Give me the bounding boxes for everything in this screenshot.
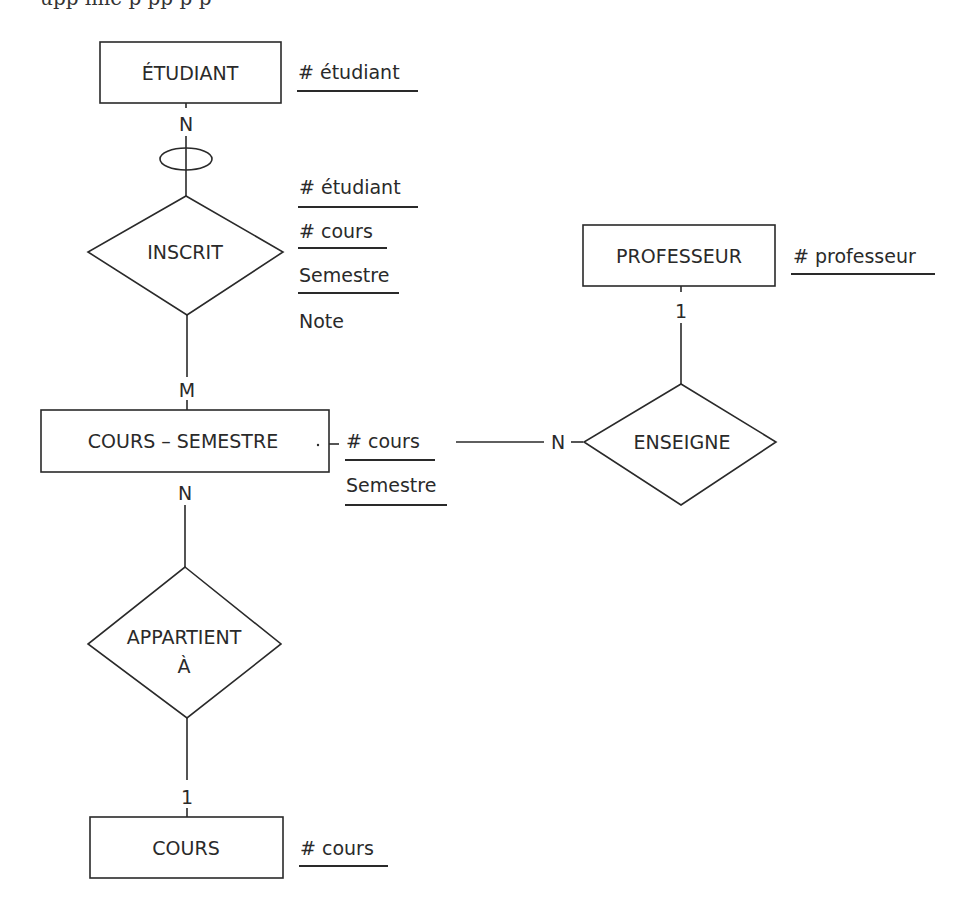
entity-cours-semestre[interactable]: COURS – SEMESTRE — [41, 410, 329, 472]
attr-inscrit-etudiant: # étudiant — [299, 176, 401, 198]
attr-cours-semestre-cours: # cours — [346, 430, 420, 452]
er-diagram: ÉTUDIANT COURS – SEMESTRE PROFESSEUR COU… — [0, 0, 979, 918]
relationship-appartient-label-line2: À — [178, 655, 191, 677]
relationship-inscrit-label: INSCRIT — [147, 241, 223, 263]
attr-etudiant-id: # étudiant — [298, 61, 400, 83]
attr-professeur-id: # professeur — [793, 245, 916, 267]
cardinality-professeur-enseigne: 1 — [675, 300, 687, 322]
attr-inscrit-cours: # cours — [299, 220, 373, 242]
attr-inscrit-note: Note — [299, 310, 344, 332]
cardinality-cours-semestre-enseigne: N — [551, 431, 565, 453]
entity-cours[interactable]: COURS — [90, 817, 283, 878]
cardinality-inscrit-cours-semestre: M — [179, 379, 195, 401]
cardinality-etudiant-inscrit: N — [179, 113, 193, 135]
relationship-appartient[interactable]: APPARTIENT À — [88, 567, 281, 718]
entity-etudiant-label: ÉTUDIANT — [142, 62, 239, 84]
attr-inscrit-semestre: Semestre — [299, 264, 389, 286]
entity-professeur[interactable]: PROFESSEUR — [583, 225, 775, 286]
relationship-enseigne-label: ENSEIGNE — [634, 431, 731, 453]
cardinality-appartient-cours: 1 — [181, 786, 193, 808]
entity-etudiant[interactable]: ÉTUDIANT — [100, 42, 281, 103]
relationship-appartient-label-line1: APPARTIENT — [127, 626, 242, 648]
entity-cours-label: COURS — [152, 837, 219, 859]
cardinality-cours-semestre-appartient: N — [178, 482, 192, 504]
relationship-enseigne[interactable]: ENSEIGNE — [584, 384, 776, 505]
attr-cours-semestre-semestre: Semestre — [346, 474, 436, 496]
entity-cours-semestre-label: COURS – SEMESTRE — [88, 430, 278, 452]
attr-cours-id: # cours — [300, 837, 374, 859]
entity-professeur-label: PROFESSEUR — [616, 245, 742, 267]
dot-marker — [317, 444, 319, 446]
relationship-inscrit[interactable]: INSCRIT — [88, 196, 283, 315]
